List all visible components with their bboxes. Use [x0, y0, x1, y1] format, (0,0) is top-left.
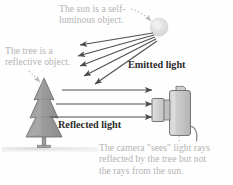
- reflected-light-label: Reflected light: [58, 119, 121, 130]
- tree-leader-arrow: [29, 71, 40, 82]
- sun-caption: The sun is a self- luminous object.: [59, 3, 145, 26]
- light-diagram-figure: The sun is a self- luminous object. The …: [0, 0, 233, 185]
- pine-tree-icon: [26, 78, 62, 147]
- camera-caption: The camera "sees" light rays reflected b…: [99, 142, 231, 176]
- emitted-light-label: Emitted light: [128, 59, 185, 70]
- tree-caption: The tree is a reflective object.: [5, 45, 79, 68]
- camera-icon: [152, 86, 197, 141]
- reflected-light-rays: [50, 90, 152, 117]
